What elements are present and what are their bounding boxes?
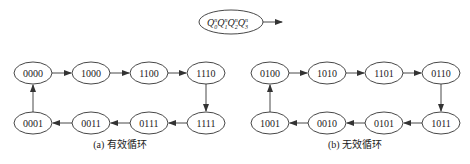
state-label: 0101 [374, 118, 394, 129]
state-label: 0011 [81, 118, 101, 129]
state-label: 0111 [139, 118, 158, 129]
legend-label: Q0nQ1nQ2nQ3n [207, 17, 248, 30]
state-label: 0000 [23, 68, 43, 79]
legend: Q0nQ1nQ2nQ3n [199, 10, 282, 34]
state-label: 0100 [260, 68, 280, 79]
state-label: 0010 [317, 118, 337, 129]
caption-b: (b) 无效循环 [328, 138, 382, 151]
state-diagram-canvas: Q0nQ1nQ2nQ3n 0000 1000 1100 1110 0001 00… [0, 0, 470, 164]
state-label: 0001 [23, 118, 43, 129]
state-label: 1110 [196, 68, 215, 79]
state-label: 1000 [81, 68, 101, 79]
state-label: 1011 [431, 118, 451, 129]
state-label: 1010 [317, 68, 337, 79]
diagram-a-valid-cycle: 0000 1000 1100 1110 0001 0011 0111 1111 … [14, 62, 225, 151]
state-label: 1111 [197, 118, 216, 129]
diagram-b-invalid-cycle: 0100 1010 1101 0110 1001 0010 0101 1011 … [251, 62, 460, 151]
state-label: 0110 [431, 68, 451, 79]
state-label: 1101 [374, 68, 394, 79]
state-label: 1100 [139, 68, 159, 79]
state-label: 1001 [260, 118, 280, 129]
caption-a: (a) 有效循环 [93, 138, 147, 151]
